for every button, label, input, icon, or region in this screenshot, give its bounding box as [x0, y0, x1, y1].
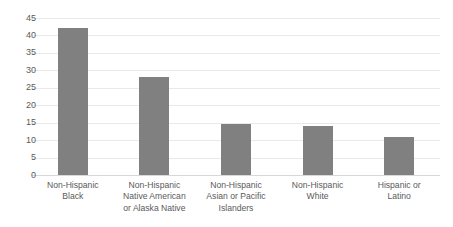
bar: [221, 124, 251, 175]
bar-slot: [114, 18, 196, 175]
x-axis-category-label-line: Non-Hispanic: [115, 180, 195, 191]
x-axis-category-label-line: Non-Hispanic: [196, 180, 276, 191]
x-axis-category-label-line: Non-Hispanic: [278, 180, 358, 191]
bar-slot: [277, 18, 359, 175]
bar: [303, 126, 333, 175]
x-axis-category-label: Non-HispanicWhite: [277, 180, 359, 214]
x-axis-category-label-line: or Alaska Native: [115, 203, 195, 214]
bar: [384, 137, 414, 175]
x-axis-category-label-line: Native American: [115, 191, 195, 202]
bar-slot: [195, 18, 277, 175]
bar-chart: 454035302520151050 Non-HispanicBlackNon-…: [0, 0, 453, 227]
gridline: [32, 175, 440, 176]
bar: [139, 77, 169, 175]
x-axis-category-labels: Non-HispanicBlackNon-HispanicNative Amer…: [32, 180, 440, 214]
x-axis-category-label: Hispanic orLatino: [358, 180, 440, 214]
bar: [58, 28, 88, 175]
x-axis-category-label-line: Non-Hispanic: [33, 180, 113, 191]
x-axis-category-label: Non-HispanicNative Americanor Alaska Nat…: [114, 180, 196, 214]
x-axis-category-label-line: White: [278, 191, 358, 202]
x-axis-category-label-line: Latino: [359, 191, 439, 202]
x-axis-category-label-line: Hispanic or: [359, 180, 439, 191]
x-axis-category-label: Non-HispanicAsian or PacificIslanders: [195, 180, 277, 214]
x-axis-category-label-line: Islanders: [196, 203, 276, 214]
x-axis-category-label-line: Asian or Pacific: [196, 191, 276, 202]
x-axis-category-label: Non-HispanicBlack: [32, 180, 114, 214]
bar-slot: [32, 18, 114, 175]
x-axis-category-label-line: Black: [33, 191, 113, 202]
bar-slot: [358, 18, 440, 175]
bar-series: [32, 18, 440, 175]
